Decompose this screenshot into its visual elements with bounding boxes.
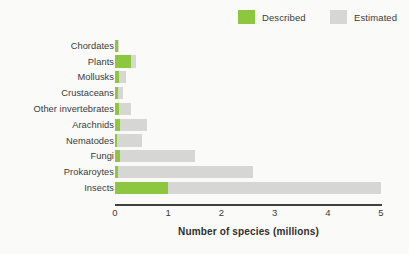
chart-legend: Described Estimated <box>230 8 405 28</box>
bar-segment-estimated <box>115 166 253 178</box>
bar-row: Nematodes <box>0 133 409 149</box>
bar-segment-described <box>115 55 131 67</box>
bar-row: Crustaceans <box>0 85 409 101</box>
bar-row: Arachnids <box>0 117 409 133</box>
category-label: Crustaceans <box>61 88 114 98</box>
bar-track <box>115 87 381 99</box>
bar-track <box>115 134 381 146</box>
category-label: Other invertebrates <box>33 104 114 114</box>
category-label: Insects <box>84 183 114 193</box>
x-tick-label: 1 <box>166 207 171 218</box>
category-label: Fungi <box>90 151 114 161</box>
x-tick-label: 3 <box>272 207 277 218</box>
category-label: Prokaroytes <box>64 167 114 177</box>
bar-segment-described <box>115 166 118 178</box>
legend-item-estimated: Estimated <box>330 8 397 26</box>
x-tick-label: 0 <box>112 207 117 218</box>
bar-track <box>115 182 381 194</box>
category-label: Nematodes <box>66 136 114 146</box>
bar-segment-estimated <box>115 150 195 162</box>
bar-segment-described <box>115 71 119 83</box>
bar-segment-estimated <box>115 134 142 146</box>
bar-row: Prokaroytes <box>0 164 409 180</box>
bar-row: Plants <box>0 54 409 70</box>
bar-track <box>115 166 381 178</box>
bar-row: Other invertebrates <box>0 101 409 117</box>
bar-track <box>115 119 381 131</box>
bar-track <box>115 103 381 115</box>
category-label: Arachnids <box>72 120 114 130</box>
plot-area: ChordatesPlantsMollusksCrustaceansOther … <box>0 38 409 206</box>
bar-segment-described <box>115 119 120 131</box>
bar-track <box>115 55 381 67</box>
legend-label-estimated: Estimated <box>354 12 397 23</box>
category-label: Chordates <box>71 41 114 51</box>
bar-track <box>115 40 381 52</box>
bar-row: Mollusks <box>0 70 409 86</box>
bar-row: Chordates <box>0 38 409 54</box>
bar-track <box>115 71 381 83</box>
x-axis-tick-labels: 012345 <box>0 207 409 221</box>
bar-segment-described <box>115 182 168 194</box>
bar-segment-described <box>115 40 118 52</box>
x-tick-label: 2 <box>219 207 224 218</box>
legend-item-described: Described <box>238 8 306 26</box>
species-bar-chart: Described Estimated ChordatesPlantsMollu… <box>0 0 409 254</box>
x-tick-label: 4 <box>325 207 330 218</box>
bar-segment-described <box>115 87 118 99</box>
bar-segment-described <box>115 134 117 146</box>
legend-swatch-described <box>238 10 255 24</box>
bar-row: Insects <box>0 180 409 196</box>
legend-label-described: Described <box>262 12 306 23</box>
bar-segment-described <box>115 103 119 115</box>
bar-track <box>115 150 381 162</box>
bar-segment-described <box>115 150 120 162</box>
legend-swatch-estimated <box>330 10 347 24</box>
bar-row: Fungi <box>0 149 409 165</box>
category-label: Mollusks <box>77 72 114 82</box>
category-label: Plants <box>88 57 114 67</box>
x-axis-line <box>115 204 382 206</box>
x-axis-title: Number of species (millions) <box>115 226 382 237</box>
x-tick-label: 5 <box>378 207 383 218</box>
